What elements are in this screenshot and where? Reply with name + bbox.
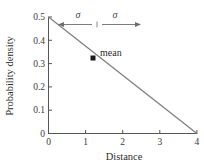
x-tick-label-1: 1 [83,137,88,147]
y-tick-label-5: 0.5 [33,12,45,22]
sigma-annotation-group: σ σ [58,9,141,28]
chart-canvas: 0 0.1 0.2 0.3 0.4 0.5 0 1 2 3 4 Distance… [0,0,204,165]
x-tick-marks [49,130,197,134]
x-axis-title: Distance [106,151,143,162]
sigma-label-left: σ [76,9,82,20]
x-tick-label-3: 3 [157,137,162,147]
y-tick-marks [49,17,53,134]
probability-density-chart: 0 0.1 0.2 0.3 0.4 0.5 0 1 2 3 4 Distance… [0,0,204,165]
x-tick-label-4: 4 [195,137,200,147]
sigma-arrowhead-right-icon [135,22,141,27]
mean-label: mean [100,47,122,58]
density-line [49,17,197,134]
y-tick-label-3: 0.3 [33,59,45,69]
sigma-label-right: σ [113,9,119,20]
mean-marker [91,56,96,61]
y-tick-labels: 0 0.1 0.2 0.3 0.4 0.5 [33,12,45,138]
y-tick-label-0: 0 [40,129,45,139]
y-tick-label-4: 0.4 [33,36,45,46]
x-tick-label-2: 2 [120,137,125,147]
y-tick-label-1: 0.1 [33,105,45,115]
y-tick-label-2: 0.2 [33,82,45,92]
y-axis-title: Probability density [4,35,15,115]
x-tick-label-0: 0 [46,137,51,147]
x-tick-labels: 0 1 2 3 4 [46,137,199,147]
